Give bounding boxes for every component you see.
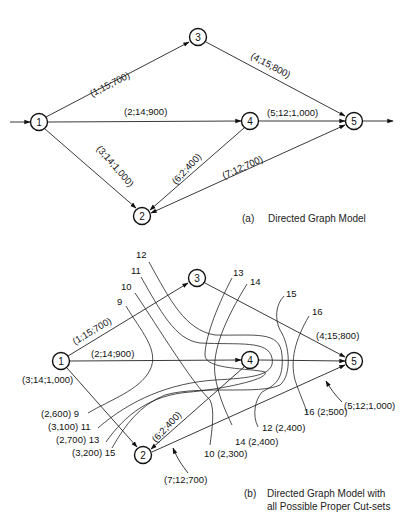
node-5: 5 bbox=[346, 113, 363, 130]
diagram-canvas: (1;15;700) (2;14;900) (3;14;1,000) (4;15… bbox=[0, 0, 419, 522]
pointer-5 bbox=[326, 381, 342, 402]
cut-value-12: 12 (2,400) bbox=[262, 422, 305, 433]
edge-1-4 bbox=[48, 121, 241, 122]
svg-text:4: 4 bbox=[247, 355, 253, 366]
node-b-2: 2 bbox=[135, 447, 152, 464]
edge-b-1-3 bbox=[68, 283, 188, 356]
edge-b-label-5: (5;12;1,000) bbox=[344, 400, 395, 411]
edge-b-label-3: (3;14;1,000) bbox=[22, 374, 73, 385]
edge-label-2: (2;14;900) bbox=[124, 106, 167, 117]
node-b-4: 4 bbox=[242, 352, 259, 369]
cut-top-14: 14 bbox=[250, 276, 261, 287]
svg-text:1: 1 bbox=[58, 356, 64, 367]
node-4: 4 bbox=[242, 113, 259, 130]
cut-value-14: 14 (2,400) bbox=[235, 436, 278, 447]
figure-b-cut-sets: 12 11 10 9 13 14 15 16 (1;15;700) (2;14;… bbox=[22, 249, 395, 512]
cut-top-10: 10 bbox=[121, 281, 132, 292]
svg-text:2: 2 bbox=[139, 211, 145, 222]
svg-text:4: 4 bbox=[247, 116, 253, 127]
cut-value-15: (3,200) 15 bbox=[72, 447, 115, 458]
edge-b-label-4: (4;15;800) bbox=[316, 330, 359, 341]
edge-label-7: (7;12;700) bbox=[220, 153, 264, 181]
node-3: 3 bbox=[190, 29, 207, 46]
caption-a: Directed Graph Model bbox=[268, 213, 366, 224]
node-b-5: 5 bbox=[346, 353, 363, 370]
svg-text:5: 5 bbox=[351, 116, 357, 127]
node-b-3: 3 bbox=[189, 270, 206, 287]
edge-b-3-5 bbox=[205, 283, 345, 357]
node-1: 1 bbox=[31, 114, 48, 131]
cut-value-13: (2,700) 13 bbox=[56, 434, 99, 445]
caption-b-line1: Directed Graph Model with bbox=[267, 488, 385, 499]
edge-b-label-7: (7;12;700) bbox=[164, 474, 207, 485]
edge-label-4: (4;15;800) bbox=[249, 50, 292, 80]
svg-text:3: 3 bbox=[194, 273, 200, 284]
caption-b-line2: all Possible Proper Cut-sets bbox=[267, 501, 390, 512]
cut-top-9: 9 bbox=[117, 296, 122, 307]
node-2: 2 bbox=[134, 208, 151, 225]
cut-value-10: 10 (2,300) bbox=[204, 448, 247, 459]
cut-14 bbox=[215, 284, 247, 425]
svg-text:3: 3 bbox=[195, 32, 201, 43]
cut-value-9: (2,600) 9 bbox=[41, 408, 79, 419]
node-b-1: 1 bbox=[53, 353, 70, 370]
svg-text:5: 5 bbox=[351, 356, 357, 367]
cut-top-13: 13 bbox=[233, 267, 244, 278]
cut-top-15: 15 bbox=[286, 288, 297, 299]
cut-value-11: (3,100) 11 bbox=[48, 421, 91, 432]
edge-b-label-6: (6;2;400) bbox=[149, 409, 183, 444]
edge-label-1: (1;15;700) bbox=[88, 69, 132, 98]
edge-label-5: (5;12;1,000) bbox=[267, 107, 318, 118]
caption-a-tag: (a) bbox=[242, 213, 254, 224]
edge-label-6: (6;2;400) bbox=[169, 151, 203, 186]
edge-label-3: (3;14;1,000) bbox=[94, 143, 136, 189]
figure-a-directed-graph: (1;15;700) (2;14;900) (3;14;1,000) (4;15… bbox=[10, 29, 393, 225]
cut-value-16: 16 (2;500) bbox=[304, 406, 347, 417]
svg-text:1: 1 bbox=[36, 117, 42, 128]
edge-3-5 bbox=[206, 42, 345, 116]
svg-text:2: 2 bbox=[140, 450, 146, 461]
edge-b-4-5 bbox=[259, 360, 345, 361]
edge-b-label-2: (2;14;900) bbox=[91, 348, 134, 359]
cut-top-11: 11 bbox=[131, 265, 141, 276]
caption-b-tag: (b) bbox=[244, 488, 256, 499]
cut-top-12: 12 bbox=[136, 249, 147, 260]
cut-top-16: 16 bbox=[312, 306, 323, 317]
pointer-7 bbox=[173, 448, 188, 473]
